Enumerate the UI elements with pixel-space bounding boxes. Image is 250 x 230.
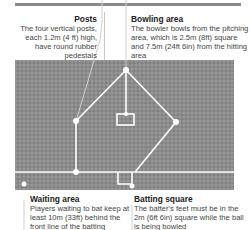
callout-title: Waiting area xyxy=(30,194,130,204)
callout-title: Bowling area xyxy=(131,14,249,24)
callout-title: Posts xyxy=(10,14,97,24)
callout-batting-square: Batting square The batter's feet must be… xyxy=(134,194,244,230)
callout-body: The four vertical posts, each 1.2m (4 ft… xyxy=(10,24,97,60)
batting-marker-icon xyxy=(130,184,135,189)
batting-square-icon xyxy=(118,172,132,184)
callout-posts: Posts The four vertical posts, each 1.2m… xyxy=(10,14,97,60)
callout-body: Players waiting to bat keep at least 10m… xyxy=(30,204,130,230)
pitch-lines xyxy=(15,70,234,184)
waiting-marker-icon xyxy=(22,182,27,187)
callout-bowling-area: Bowling area The bowler bowls from the p… xyxy=(131,14,249,60)
bowling-marker-icon xyxy=(124,112,128,116)
post-marker-icon xyxy=(123,67,129,73)
line-right-diagonal xyxy=(135,122,176,172)
callout-body: The bowler bowls from the pitching area,… xyxy=(131,24,249,60)
callout-body: The batter's feet must be in the 2m (6ft… xyxy=(134,204,244,230)
callout-title: Batting square xyxy=(134,194,244,204)
posts xyxy=(22,67,180,189)
post-marker-icon xyxy=(73,118,79,124)
post-marker-icon xyxy=(73,169,79,175)
callout-waiting-area: Waiting area Players waiting to bat keep… xyxy=(30,194,130,230)
post-marker-icon xyxy=(173,119,179,125)
